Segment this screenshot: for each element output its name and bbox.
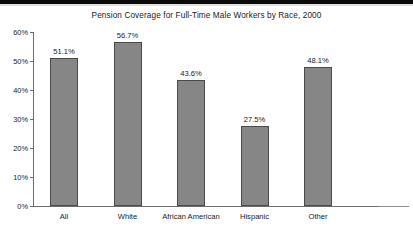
bar <box>50 58 78 206</box>
y-axis-tick <box>30 119 33 120</box>
bar-value-label: 27.5% <box>231 115 279 124</box>
plot-area: 0%10%20%30%40%50%60% 51.1%56.7%43.6%27.5… <box>33 32 378 207</box>
chart-screenshot: Pension Coverage for Full-Time Male Work… <box>0 0 413 229</box>
y-axis-tick-label: 10% <box>2 173 28 182</box>
bar <box>304 67 332 206</box>
y-axis-tick-label: 50% <box>2 57 28 66</box>
scan-edge-fade <box>0 4 413 6</box>
y-axis-tick <box>30 61 33 62</box>
y-axis-tick <box>30 32 33 33</box>
category-label: Other <box>270 212 366 221</box>
y-axis-line <box>33 32 34 207</box>
y-axis-tick <box>30 177 33 178</box>
chart-title: Pension Coverage for Full-Time Male Work… <box>0 11 413 20</box>
y-axis-tick <box>30 206 33 207</box>
bar-value-label: 43.6% <box>167 69 215 78</box>
bar-value-label: 48.1% <box>294 56 342 65</box>
y-axis-tick <box>30 90 33 91</box>
bar-value-label: 51.1% <box>40 47 88 56</box>
y-axis-tick-label: 60% <box>2 28 28 37</box>
y-axis-tick-label: 0% <box>2 202 28 211</box>
y-axis-tick-label: 40% <box>2 86 28 95</box>
x-axis-line <box>33 206 378 207</box>
y-axis-tick-label: 30% <box>2 115 28 124</box>
x-axis-extension-line <box>378 206 409 207</box>
bar <box>114 42 142 206</box>
bar-value-label: 56.7% <box>104 31 152 40</box>
bar <box>177 80 205 206</box>
y-axis-tick <box>30 148 33 149</box>
y-axis-tick-label: 20% <box>2 144 28 153</box>
bar <box>241 126 269 206</box>
